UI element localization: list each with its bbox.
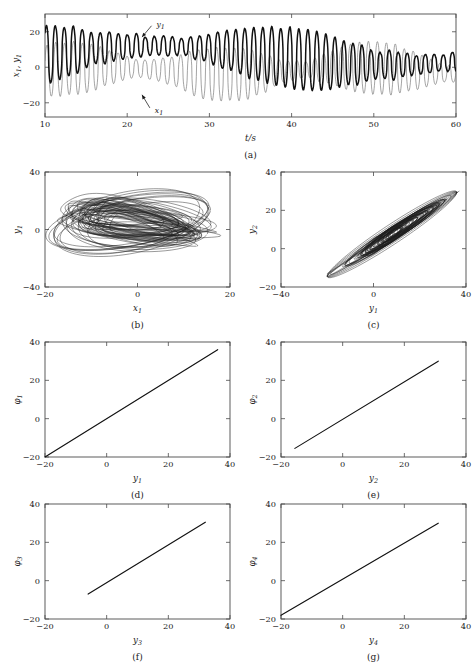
x-tick-label: 20	[399, 459, 409, 469]
x-tick-label: 40	[461, 621, 471, 631]
y-tick-label: 20	[266, 205, 276, 215]
x-tick-label: 20	[163, 459, 173, 469]
y-tick-label: 20	[266, 537, 276, 547]
annotation-label-x: x1​	[155, 106, 163, 117]
x-tick-label: 30	[204, 119, 214, 129]
y-tick-label: 40	[266, 499, 276, 509]
x-tick-label: 40	[225, 459, 235, 469]
panel-c-sync-manifold: −40040−2002040y1​y2​(c)	[236, 160, 472, 335]
x-tick-label: 20	[163, 621, 173, 631]
y-tick-label: −20	[23, 614, 40, 624]
x-tick-label: 40	[286, 119, 296, 129]
x-axis-label: x1​	[133, 303, 142, 315]
x-tick-label: 0	[104, 621, 109, 631]
y-tick-label: 0	[35, 414, 40, 424]
panel-e-phi2-vs-y2: −2002040−2002040y2​φ2​(e)	[236, 330, 472, 500]
sync-line	[88, 522, 205, 594]
panel-caption: (b)	[131, 320, 144, 330]
x-axis-label: y4​	[368, 635, 378, 647]
x-axis-label: y1​	[132, 473, 142, 485]
y-tick-label: −40	[23, 282, 40, 292]
y-tick-label: 40	[30, 337, 40, 347]
y-tick-label: 20	[30, 375, 40, 385]
x-axis-label: t/s	[245, 133, 256, 143]
y-tick-label: 20	[30, 537, 40, 547]
y-tick-label: 40	[30, 167, 40, 177]
x-tick-label: 20	[399, 621, 409, 631]
x-tick-label: 0	[371, 289, 376, 299]
panel-f-phi3-vs-y3: −2002040−2002040y3​φ3​(f)	[0, 492, 240, 665]
x-tick-label: 0	[135, 289, 140, 299]
y-tick-label: 0	[35, 62, 40, 72]
manifold-loop	[354, 217, 418, 259]
y-axis-label: φ2​	[247, 394, 259, 404]
y-tick-label: −20	[23, 452, 40, 462]
x-tick-label: 0	[340, 621, 345, 631]
y-tick-label: 20	[266, 375, 276, 385]
y-axis-label: y2​	[247, 225, 259, 235]
y-tick-label: 40	[30, 499, 40, 509]
annotation-arrowhead	[142, 95, 146, 100]
x-axis-label: y1​	[368, 303, 378, 315]
manifold-trace	[327, 191, 459, 278]
y-tick-label: −20	[259, 282, 276, 292]
y-axis-label: φ1​	[12, 394, 24, 404]
y-tick-label: 40	[266, 337, 276, 347]
sync-line	[45, 350, 218, 457]
identity-line	[327, 191, 459, 273]
panel-d-phi1-vs-y1: −2002040−2002040y1​φ1​(d)	[0, 330, 240, 500]
y-tick-label: −20	[23, 98, 40, 108]
y-tick-label: 0	[35, 225, 40, 235]
plot-frame	[281, 172, 466, 287]
panel-a-time-series: 102030405060−20020t/sx1​, y1​(a)y1​x1​	[0, 0, 472, 160]
y-tick-label: −20	[259, 452, 276, 462]
y-tick-label: 0	[271, 576, 276, 586]
series-y1-line	[45, 25, 456, 90]
panel-caption: (f)	[132, 652, 142, 662]
x-tick-label: 60	[451, 119, 461, 129]
plot-frame	[45, 504, 230, 619]
x-tick-label: 20	[122, 119, 132, 129]
y-axis-label: x1​, y1​	[11, 54, 23, 77]
panel-b-phase-portrait: −20020−40040x1​y1​(b)	[0, 160, 240, 335]
panel-caption: (g)	[367, 652, 380, 662]
sync-line	[295, 361, 438, 448]
x-tick-label: 50	[369, 119, 379, 129]
sync-line	[281, 523, 438, 615]
x-tick-label: 40	[461, 289, 471, 299]
y-axis-label: y1​	[12, 225, 24, 235]
panel-caption: (c)	[367, 320, 379, 330]
y-tick-label: 0	[35, 576, 40, 586]
y-tick-label: 40	[266, 167, 276, 177]
y-axis-label: φ3​	[12, 556, 24, 566]
x-axis-label: y2​	[368, 473, 378, 485]
attractor-trace	[46, 189, 221, 257]
panel-g-phi4-vs-y4: −2002040−2002040y4​φ4​(g)	[236, 492, 472, 665]
figure-panel-grid: 102030405060−20020t/sx1​, y1​(a)y1​x1​ −…	[0, 0, 472, 665]
manifold-loop	[343, 225, 406, 266]
x-tick-label: 20	[225, 289, 235, 299]
x-tick-label: 40	[461, 459, 471, 469]
x-tick-label: 40	[225, 621, 235, 631]
y-tick-label: 0	[271, 244, 276, 254]
x-axis-label: y3​	[132, 635, 142, 647]
x-tick-label: 0	[340, 459, 345, 469]
x-tick-label: 10	[40, 119, 50, 129]
y-tick-label: −20	[259, 614, 276, 624]
annotation-label-y: y1​	[156, 20, 165, 31]
manifold-loop	[368, 212, 426, 250]
y-axis-label: φ4​	[247, 556, 259, 566]
y-tick-label: 0	[271, 414, 276, 424]
x-tick-label: 0	[104, 459, 109, 469]
y-tick-label: 20	[30, 27, 40, 37]
panel-caption: (a)	[244, 150, 256, 160]
